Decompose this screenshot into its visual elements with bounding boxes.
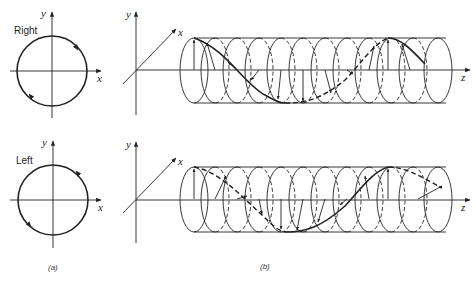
- y-axis-label: y: [125, 138, 131, 150]
- cylinder-rings: [180, 38, 452, 103]
- field-vectors: [194, 169, 442, 230]
- y-axis-label: y: [40, 7, 46, 19]
- y-axis-label: y: [41, 136, 47, 148]
- panel-b-caption: (b): [260, 262, 270, 271]
- x-axis: [123, 29, 176, 84]
- z-axis-label: z: [460, 201, 466, 213]
- cylinder-rings: [180, 167, 452, 232]
- x-axis-label: x: [96, 72, 102, 84]
- panel-a-caption: (a): [48, 263, 58, 272]
- x-axis-label: x: [177, 26, 183, 38]
- helix-back: [388, 167, 442, 188]
- helix-back: [285, 38, 388, 103]
- rotation-label: Left: [16, 155, 33, 166]
- panel-b-left-helix: y x z: [123, 138, 470, 271]
- panel-a-right: Right y x: [10, 7, 102, 118]
- x-axis-label: x: [97, 201, 103, 213]
- polarization-figure: Right y x Left y x (a) y x z: [0, 0, 476, 281]
- panel-a-left: Left y x (a): [10, 136, 103, 272]
- y-axis-label: y: [125, 8, 131, 20]
- panel-b-right-helix: y x z: [123, 8, 470, 115]
- x-axis: [123, 158, 176, 213]
- rotation-label: Right: [14, 25, 38, 36]
- z-axis-label: z: [460, 71, 466, 83]
- x-axis-label: x: [177, 155, 183, 167]
